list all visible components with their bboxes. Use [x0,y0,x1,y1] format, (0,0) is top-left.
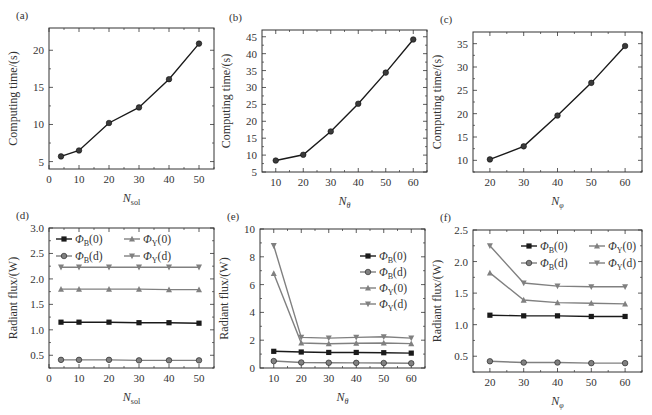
data-point [271,243,277,249]
y-tick-label: 2.0 [30,273,44,285]
data-point [410,37,416,43]
y-axis-label: Radiant flux/(W) [430,260,444,342]
legend-label-part: (d) [158,250,172,263]
data-point [555,113,561,119]
y-tick-label: 4 [250,306,256,318]
x-tick-label: 40 [164,173,176,185]
y-axis-label: Radiant flux/(W) [6,257,20,339]
legend-label-part: Φ [379,266,388,278]
y-tick-label: 20 [33,44,45,56]
data-point [589,314,594,319]
x-tick-label: 20 [104,372,116,384]
y-tick-label: 5 [39,156,45,168]
legend-entry: ΦY(d) [589,257,636,272]
legend-label-part: Φ [540,257,549,269]
data-point [355,101,361,107]
data-point [381,350,386,355]
data-point [521,313,526,318]
x-tick-label: 20 [298,176,310,188]
legend-entry: ΦY(d) [360,298,407,313]
y-tick-label: 1.5 [454,287,468,299]
chart-panel-d: (d)010203040500.51.01.52.02.53.0NsolRadi… [6,209,214,406]
data-point [166,76,172,82]
legend-label: ΦY(d) [608,257,636,272]
x-tick-label: 20 [484,376,496,388]
data-point [58,154,64,160]
x-tick-label: 60 [620,176,632,188]
data-point [58,357,64,363]
legend-entry: ΦY(0) [589,240,636,255]
legend: ΦB(0)ΦY(0)ΦB(d)ΦY(d) [56,233,171,265]
legend-entry: ΦY(0) [124,233,171,248]
data-point [271,270,277,276]
data-point [271,358,277,364]
legend-label-part: (0) [554,240,568,253]
x-tick-label: 10 [74,173,86,185]
x-tick-label: 30 [134,372,146,384]
legend-label-part: (d) [393,266,407,279]
x-tick-label: 20 [296,372,308,384]
x-axis-label: Nsol [122,191,141,207]
y-axis-label: Radiant flux/(W) [217,257,231,339]
legend-label-part: Φ [75,233,84,245]
legend-entry: ΦY(0) [360,282,407,297]
legend-label: ΦB(d) [75,250,103,265]
series-ΦB(d) [58,357,202,363]
y-axis-label: Computing time/(s) [219,54,233,148]
legend-label-part: Φ [143,233,152,245]
x-tick-label: 10 [270,176,282,188]
data-point [326,360,332,366]
legend-label: ΦY(0) [379,282,407,297]
data-point [589,360,595,366]
y-tick-label: 6 [250,279,256,291]
legend-entry: ΦB(0) [360,250,407,265]
panel-label: (b) [229,11,242,24]
data-point [298,360,304,366]
y-tick-label: 1.0 [30,324,44,336]
legend-marker [365,253,370,258]
legend-entry: ΦB(d) [56,250,103,265]
legend-label-part: Φ [143,250,152,262]
legend-label: ΦB(d) [540,257,568,272]
x-tick-label: 40 [353,176,365,188]
y-tick-label: 25 [457,84,469,96]
legend-label-part: (0) [394,282,408,295]
data-point [136,105,142,111]
legend-entry: ΦB(d) [521,257,568,272]
legend-label-part: (d) [554,257,568,270]
legend-label: ΦB(d) [379,266,407,281]
legend-entry: ΦB(0) [56,233,103,248]
x-tick-label: 0 [46,372,52,384]
data-point [299,349,304,354]
data-point [487,358,493,364]
y-tick-label: 0.5 [30,349,44,361]
x-tick-label: 50 [194,372,206,384]
series-line [274,351,412,353]
y-tick-label: 2.5 [30,247,44,259]
series-ΦY(0) [58,286,202,292]
y-tick-label: 15 [33,81,45,93]
data-point [166,358,172,364]
x-tick-label: 40 [552,176,564,188]
x-axis-label: Nθ [336,390,349,406]
series-line [61,44,199,157]
legend-label-part: (0) [393,250,407,263]
chart-panel-a: (a)010203040505101520NsolComputing time/… [6,9,214,207]
panel-label: (e) [227,210,240,223]
legend-label-part: Φ [608,240,617,252]
data-point [326,350,331,355]
series-Computing time [487,43,628,162]
x-tick-label: 40 [164,372,176,384]
legend-label-part: Φ [75,250,84,262]
y-tick-label: 0 [250,362,256,374]
x-axis-label-sub: θ [345,397,349,406]
y-tick-label: 30 [457,61,469,73]
x-tick-label: 30 [325,176,337,188]
y-tick-label: 40 [246,48,258,60]
plot-frame [262,30,427,172]
data-point [76,357,82,363]
x-tick-label: 30 [323,372,335,384]
data-point [521,360,527,366]
data-point [354,350,359,355]
data-point [383,70,389,76]
